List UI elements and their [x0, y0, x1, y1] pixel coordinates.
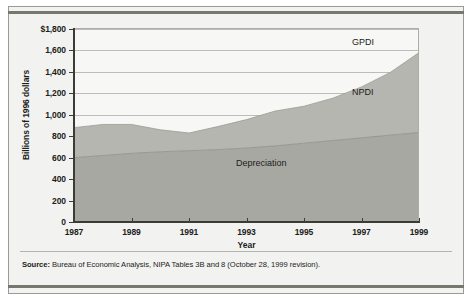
y-tick-label: 400	[8, 174, 66, 184]
y-tick-mark	[69, 201, 74, 202]
y-tick-mark	[69, 158, 74, 159]
series-label-npdi: NPDI	[352, 87, 374, 97]
chart-figure: $1,8001,6001,4001,2001,0008006004002000 …	[0, 0, 472, 300]
y-tick-label: $1,800	[8, 24, 66, 34]
y-tick-mark	[69, 50, 74, 51]
y-tick-label: 1,200	[8, 88, 66, 98]
stacked-area-series	[74, 29, 419, 222]
x-tick-label: 1995	[281, 227, 327, 237]
x-tick-mark	[132, 218, 133, 223]
y-tick-label: 0	[8, 217, 66, 227]
x-axis-label: Year	[74, 240, 419, 250]
y-tick-label: 600	[8, 153, 66, 163]
y-tick-label: 1,000	[8, 110, 66, 120]
y-tick-mark	[69, 222, 74, 223]
y-tick-label: 1,400	[8, 67, 66, 77]
x-tick-label: 1999	[396, 227, 442, 237]
y-tick-label: 1,600	[8, 45, 66, 55]
x-tick-label: 1997	[339, 227, 385, 237]
y-tick-mark	[69, 93, 74, 94]
y-tick-label: 200	[8, 196, 66, 206]
x-tick-mark	[419, 218, 420, 223]
y-tick-mark	[69, 72, 74, 73]
x-tick-label: 1991	[166, 227, 212, 237]
y-tick-mark	[69, 136, 74, 137]
x-tick-mark	[362, 218, 363, 223]
y-tick-label: 800	[8, 131, 66, 141]
y-axis-label: Billions of 1996 dollars	[21, 45, 31, 185]
series-label-depreciation: Depreciation	[236, 158, 287, 168]
x-tick-mark	[189, 218, 190, 223]
x-tick-label: 1993	[224, 227, 270, 237]
y-tick-mark	[69, 179, 74, 180]
source-note: Source: Bureau of Economic Analysis, NIP…	[22, 260, 320, 269]
plot-border-right	[418, 28, 419, 222]
y-tick-mark	[69, 29, 74, 30]
bottom-rule	[8, 285, 464, 288]
top-rule	[8, 11, 464, 14]
x-tick-label: 1987	[51, 227, 97, 237]
x-tick-mark	[247, 218, 248, 223]
x-tick-label: 1989	[109, 227, 155, 237]
source-prefix: Source:	[22, 260, 50, 269]
x-tick-mark	[304, 218, 305, 223]
source-divider	[20, 251, 452, 252]
source-text: Bureau of Economic Analysis, NIPA Tables…	[50, 260, 320, 269]
plot-border-top	[74, 28, 419, 29]
y-tick-mark	[69, 115, 74, 116]
series-label-gpdi: GPDI	[352, 37, 374, 47]
y-axis-line	[73, 28, 75, 223]
